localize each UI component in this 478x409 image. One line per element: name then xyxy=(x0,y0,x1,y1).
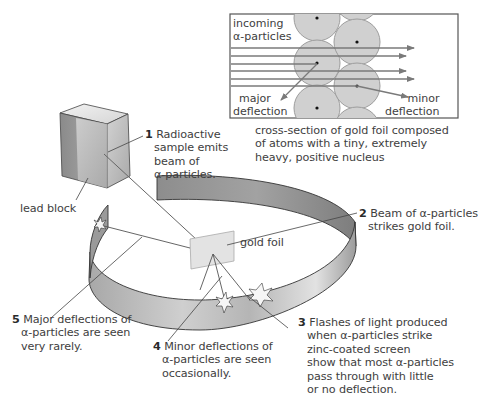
step-3-number: 3 xyxy=(298,316,306,329)
step-2-line2: strikes gold foil. xyxy=(359,220,478,233)
step-2-label: 2 Beam of α-particles strikes gold foil. xyxy=(359,207,478,234)
step-3-line2: when α-particles strike xyxy=(298,329,454,342)
step-4-line2: α-particles are seen xyxy=(153,353,273,366)
incoming-label-line1: incoming xyxy=(233,17,291,30)
step-4-number: 4 xyxy=(153,340,161,353)
step-3-label: 3 Flashes of light produced when α-parti… xyxy=(298,316,454,396)
step-5-number: 5 xyxy=(12,313,20,326)
step-5-line1: Major deflections of xyxy=(23,313,131,326)
step-1-line4: α-particles. xyxy=(145,168,228,181)
incoming-label-line2: α-particles xyxy=(233,30,291,43)
step-3-line4: show that most α-particles xyxy=(298,356,454,369)
caption-line1: cross-section of gold foil composed xyxy=(255,124,449,137)
step-5-line3: very rarely. xyxy=(12,340,131,353)
incoming-alpha-label: incoming α-particles xyxy=(233,17,291,43)
lead-block xyxy=(60,104,130,188)
step-1-line3: beam of xyxy=(145,155,228,168)
caption-line3: heavy, positive nucleus xyxy=(255,151,449,164)
caption-line2: of atoms with a tiny, extremely xyxy=(255,137,449,150)
step-2-number: 2 xyxy=(359,207,367,220)
step-1-line1: Radioactive xyxy=(156,128,220,141)
step-3-line5: pass through with little xyxy=(298,370,454,383)
step-3-line3: zinc-coated screen xyxy=(298,343,454,356)
step-4-label: 4 Minor deflections of α-particles are s… xyxy=(153,340,273,380)
step-4-line1: Minor deflections of xyxy=(164,340,273,353)
minor-label-line2: deflection xyxy=(385,105,440,118)
minor-deflection-label: minor deflection xyxy=(397,92,440,118)
step-5-line2: α-particles are seen xyxy=(12,326,131,339)
lead-block-label: lead block xyxy=(20,202,76,215)
step-5-label: 5 Major deflections of α-particles are s… xyxy=(12,313,131,353)
minor-label-line1: minor xyxy=(397,92,440,105)
gold-foil xyxy=(190,231,234,269)
inset-caption: cross-section of gold foil composed of a… xyxy=(255,124,449,164)
step-4-line3: occasionally. xyxy=(153,367,273,380)
step-3-line1: Flashes of light produced xyxy=(309,316,447,329)
step-1-label: 1 Radioactive sample emits beam of α-par… xyxy=(145,128,228,182)
major-label-line2: deflection xyxy=(233,105,288,118)
step-3-line6: or no deflection. xyxy=(298,383,454,396)
major-deflection-label: major deflection xyxy=(233,92,288,118)
step-2-line1: Beam of α-particles xyxy=(370,207,478,220)
major-label-line1: major xyxy=(233,92,288,105)
gold-foil-label: gold foil xyxy=(240,236,284,249)
step-1-line2: sample emits xyxy=(145,141,228,154)
step-1-number: 1 xyxy=(145,128,153,141)
